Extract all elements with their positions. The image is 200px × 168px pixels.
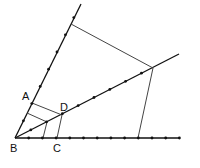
upper-ray-tick: [22, 119, 25, 122]
upper-ray-tick: [64, 33, 67, 36]
middle-ray: [15, 54, 179, 138]
middle-ray-tick: [93, 96, 96, 99]
middle-ray-tick: [108, 88, 111, 91]
upper-ray-tick: [47, 68, 50, 71]
lower-ray-tick: [68, 137, 71, 140]
lower-ray-tick: [82, 137, 85, 140]
middle-ray-tick: [77, 104, 80, 107]
segment-AD: [32, 103, 62, 115]
lower-ray-tick: [27, 137, 30, 140]
segment-DC: [57, 115, 62, 138]
geometry-diagram: A B C D: [0, 0, 200, 168]
upper-ray-tick: [30, 102, 33, 105]
label-D: D: [60, 101, 68, 113]
label-C: C: [53, 142, 61, 154]
lower-ray-tick: [123, 137, 126, 140]
middle-ray-tick: [124, 80, 127, 83]
tick-marks: [22, 16, 181, 139]
large-segment-right: [138, 68, 153, 138]
upper-ray-tick: [56, 51, 59, 54]
lower-ray-tick: [96, 137, 99, 140]
small-segment-top: [27, 113, 47, 122]
upper-ray-tick: [72, 16, 75, 19]
lower-ray-tick: [164, 137, 167, 140]
small-segment-right: [43, 122, 47, 138]
label-B: B: [10, 142, 17, 154]
lower-ray-tick: [151, 137, 154, 140]
large-segment-top: [71, 24, 153, 68]
lower-ray-tick: [41, 137, 44, 140]
label-A: A: [22, 90, 30, 102]
upper-ray-tick: [39, 85, 42, 88]
middle-ray-tick: [140, 72, 143, 75]
lower-ray-tick: [110, 137, 113, 140]
lower-ray-tick: [178, 137, 181, 140]
lower-ray-tick: [137, 137, 140, 140]
middle-ray-tick: [29, 129, 32, 132]
lower-ray-tick: [55, 137, 58, 140]
middle-ray-tick: [45, 120, 48, 123]
